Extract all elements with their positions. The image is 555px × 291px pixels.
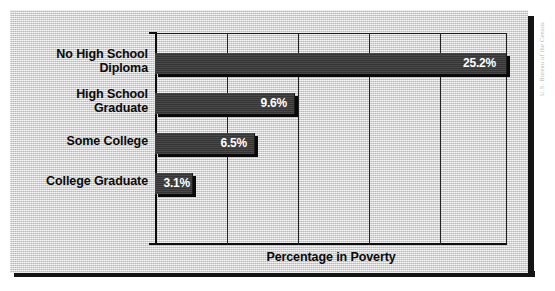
bar-no-high-school-diploma[interactable]: 25.2% bbox=[155, 53, 507, 74]
bar-value-label: 3.1% bbox=[163, 173, 190, 194]
bar-high-school-graduate[interactable]: 9.6% bbox=[155, 93, 295, 114]
category-label-college-graduate: College Graduate bbox=[12, 174, 148, 188]
category-label-column: No High School Diploma High School Gradu… bbox=[12, 33, 148, 245]
bar-fill bbox=[155, 53, 507, 74]
x-axis-title: Percentage in Poverty bbox=[155, 250, 507, 264]
chart-figure: No High School Diploma High School Gradu… bbox=[0, 0, 555, 291]
x-axis-left-overhang bbox=[149, 243, 157, 245]
category-label-high-school-graduate: High School Graduate bbox=[12, 87, 148, 115]
category-label-line1: No High School bbox=[56, 47, 148, 61]
category-label-some-college: Some College bbox=[12, 134, 148, 148]
bar-some-college[interactable]: 6.5% bbox=[155, 133, 255, 154]
plot-area: 25.2% 9.6% 6.5% 3.1% bbox=[155, 33, 507, 245]
category-label-no-high-school-diploma: No High School Diploma bbox=[12, 47, 148, 75]
category-label-line1: College Graduate bbox=[46, 174, 148, 188]
category-label-line2: Graduate bbox=[12, 101, 148, 115]
category-label-line1: Some College bbox=[67, 134, 148, 148]
panel-drop-shadow-right bbox=[528, 16, 534, 277]
bar-value-label: 25.2% bbox=[463, 53, 496, 74]
y-axis-top-overhang bbox=[149, 32, 157, 34]
category-label-line2: Diploma bbox=[12, 61, 148, 75]
source-credit-text: U.S. Bureau of the Census bbox=[538, 0, 545, 96]
bar-value-label: 6.5% bbox=[220, 133, 247, 154]
bar-college-graduate[interactable]: 3.1% bbox=[155, 173, 193, 194]
bar-value-label: 9.6% bbox=[260, 93, 287, 114]
category-label-line1: High School bbox=[76, 87, 148, 101]
